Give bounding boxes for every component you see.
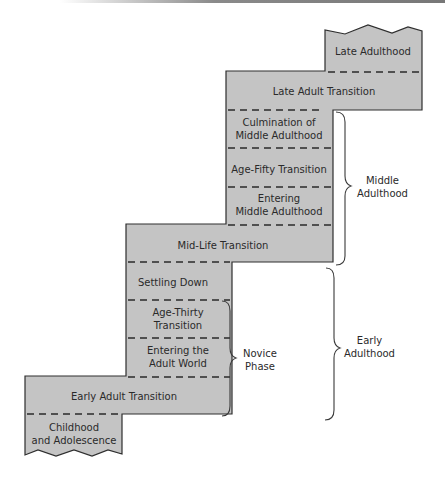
stage-late-adulthood: Late Adulthood xyxy=(335,45,411,58)
label-line: Culmination of xyxy=(235,116,322,129)
middle-adulthood-brace xyxy=(336,112,351,265)
early-adulthood-brace xyxy=(325,268,340,420)
middle-adulthood-label: Middle Adulthood xyxy=(357,174,408,200)
stage-age-thirty-transition: Age-Thirty Transition xyxy=(152,306,203,332)
stage-mid-life-transition: Mid-Life Transition xyxy=(178,239,269,252)
stage-age-fifty-transition: Age-Fifty Transition xyxy=(231,163,326,176)
stage-childhood-adolescence: Childhood and Adolescence xyxy=(32,421,117,447)
label-line: and Adolescence xyxy=(32,434,117,447)
label-line: Middle Adulthood xyxy=(235,129,322,142)
label-line: Entering xyxy=(235,192,322,205)
stage-early-adult-transition: Early Adult Transition xyxy=(71,390,177,403)
label-line: Transition xyxy=(152,319,203,332)
label-line: Age-Thirty xyxy=(152,306,203,319)
stage-entering-adult-world: Entering the Adult World xyxy=(147,344,209,370)
label-line: Childhood xyxy=(32,421,117,434)
label-line: Middle Adulthood xyxy=(235,205,322,218)
stage-settling-down: Settling Down xyxy=(138,276,208,289)
label-line: Entering the xyxy=(147,344,209,357)
novice-phase-label: Novice Phase xyxy=(243,347,277,373)
stage-late-adult-transition: Late Adult Transition xyxy=(273,85,376,98)
early-adulthood-label: Early Adulthood xyxy=(344,334,395,360)
stage-culmination-middle-adulthood: Culmination of Middle Adulthood xyxy=(235,116,322,142)
label-line: Adult World xyxy=(147,357,209,370)
stage-entering-middle-adulthood: Entering Middle Adulthood xyxy=(235,192,322,218)
